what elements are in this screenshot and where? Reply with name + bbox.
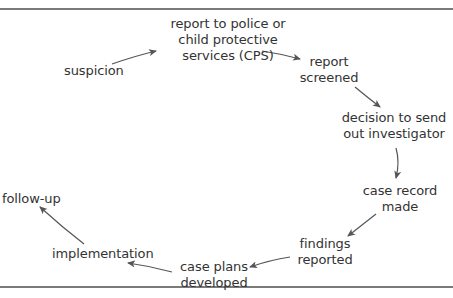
arrow-screened-to-decision xyxy=(355,87,380,107)
node-follow-up: follow-up xyxy=(2,191,61,207)
arrow-implementation-to-followup xyxy=(40,207,84,244)
node-findings-reported: findings reported xyxy=(290,236,360,268)
node-case-record-made: case record made xyxy=(352,183,448,215)
arrow-decision-to-record xyxy=(396,148,398,178)
arrow-findings-to-plans xyxy=(250,257,290,267)
arrow-record-to-findings xyxy=(348,214,376,236)
node-report-to-cps: report to police or child protective ser… xyxy=(152,16,304,64)
arrow-plans-to-implementation xyxy=(128,263,172,272)
node-report-screened: report screened xyxy=(294,54,364,86)
node-suspicion: suspicion xyxy=(64,63,124,79)
node-case-plans-developed: case plans developed xyxy=(172,259,256,291)
node-decision-to-send-investigator: decision to send out investigator xyxy=(338,110,450,142)
node-implementation: implementation xyxy=(52,246,154,262)
